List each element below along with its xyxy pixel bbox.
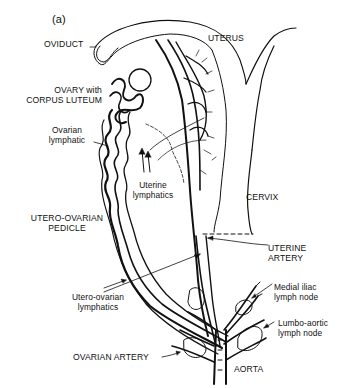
label-pedicle-line1: UTERO-OVARIAN [26,213,108,223]
label-uterine-lymphatics: Uterine lymphatics [128,180,178,200]
label-uterine-artery-line1: UTERINE [268,243,306,253]
label-lumbo-aortic-line2: lymph node [278,328,328,338]
label-aorta: AORTA [234,364,263,374]
label-ovarian-lymphatic: Ovarian lymphatic [44,125,90,145]
medial-iliac-lymph-node-left [188,288,204,310]
uterine-horn-outline [96,20,246,84]
label-utero-ovarian-lymphatics-line1: Utero-ovarian [66,292,130,302]
oviduct [97,46,118,62]
label-oviduct: OVIDUCT [44,39,83,49]
label-uterus: UTERUS [208,33,244,43]
leader-uterine-artery [208,238,268,245]
label-utero-ovarian-pedicle: UTERO-OVARIAN PEDICLE [26,213,108,233]
label-ovarian-lymphatic-line2: lymphatic [44,135,90,145]
corpus-luteum [129,69,151,91]
iliac-branches [224,286,266,360]
label-cervix: CERVIX [246,192,278,202]
label-ovarian-lymphatic-line1: Ovarian [44,125,90,135]
label-uterine-lymphatics-line1: Uterine [128,180,178,190]
label-medial-iliac-line1: Medial iliac [274,282,318,292]
label-utero-ovarian-lymphatics: Utero-ovarian lymphatics [66,292,130,312]
label-uterine-artery-line2: ARTERY [268,253,306,263]
label-uterine-artery: UTERINE ARTERY [268,243,306,263]
label-ovary-line2: CORPUS LUTEUM [14,95,102,105]
label-ovary: OVARY with CORPUS LUTEUM [14,85,102,105]
label-lumbo-aortic-line1: Lumbo-aortic [278,318,328,328]
leader-utero-ovarian [104,254,200,292]
label-medial-iliac-line2: lymph node [274,292,318,302]
label-ovarian-artery: OVARIAN ARTERY [73,352,149,362]
label-lumbo-aortic-lymph-node: Lumbo-aortic lymph node [278,318,328,338]
uterus-right-outline [246,28,296,84]
panel-label: (a) [52,14,66,24]
label-uterine-lymphatics-line2: lymphatics [128,190,178,200]
label-medial-iliac-lymph-node: Medial iliac lymph node [274,282,318,302]
ovary-vessels [112,79,143,123]
label-utero-ovarian-lymphatics-line2: lymphatics [66,302,130,312]
label-pedicle-line2: PEDICLE [26,223,108,233]
label-ovary-line1: OVARY with [14,85,102,95]
anatomy-diagram: (a) OVIDUCT UTERUS OVARY with CORPUS LUT… [0,0,348,388]
